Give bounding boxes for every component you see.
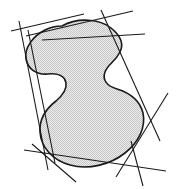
figure-canvas	[0, 0, 176, 189]
convex-region-diagram	[0, 0, 176, 189]
